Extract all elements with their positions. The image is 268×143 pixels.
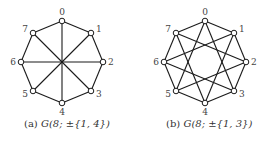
vertex-6 xyxy=(161,59,167,65)
graph-a-circulant-8-1-4: 01234567 xyxy=(10,7,113,117)
edge-4-5 xyxy=(33,91,62,103)
edge-0-1 xyxy=(62,21,91,33)
graph-b-circulant-8-1-3: 01234567 xyxy=(153,7,256,117)
vertex-label-1: 1 xyxy=(96,24,102,34)
vertex-label-2: 2 xyxy=(108,57,114,67)
vertex-1 xyxy=(231,30,237,36)
vertex-label-4: 4 xyxy=(59,107,65,117)
vertex-5 xyxy=(173,88,179,94)
edge-5-6 xyxy=(21,62,33,91)
caption-a-prefix: (a) xyxy=(24,118,38,129)
vertex-label-1: 1 xyxy=(239,24,245,34)
vertex-label-5: 5 xyxy=(22,89,28,99)
vertex-0 xyxy=(202,18,208,24)
vertex-2 xyxy=(100,59,106,65)
vertex-2 xyxy=(243,59,249,65)
vertex-4 xyxy=(59,100,65,106)
vertex-label-5: 5 xyxy=(165,89,171,99)
vertex-label-7: 7 xyxy=(22,24,28,34)
edge-0-7 xyxy=(33,21,62,33)
vertex-label-3: 3 xyxy=(96,89,102,99)
vertex-label-7: 7 xyxy=(165,24,171,34)
caption-b-math: G(8; ±{1, 3}) xyxy=(183,118,252,129)
vertex-label-6: 6 xyxy=(153,57,159,67)
vertex-label-0: 0 xyxy=(59,7,65,17)
edge-1-2 xyxy=(91,33,103,62)
vertex-5 xyxy=(30,88,36,94)
vertex-7 xyxy=(30,30,36,36)
edge-3-4 xyxy=(62,91,91,103)
vertex-label-0: 0 xyxy=(202,7,208,17)
caption-b: (b) G(8; ±{1, 3}) xyxy=(166,118,252,129)
caption-b-prefix: (b) xyxy=(166,118,180,129)
vertex-4 xyxy=(202,100,208,106)
vertex-1 xyxy=(88,30,94,36)
vertex-label-6: 6 xyxy=(10,57,16,67)
vertex-3 xyxy=(231,88,237,94)
vertex-6 xyxy=(18,59,24,65)
vertex-7 xyxy=(173,30,179,36)
caption-a-math: G(8; ±{1, 4}) xyxy=(41,118,110,129)
vertex-3 xyxy=(88,88,94,94)
vertex-0 xyxy=(59,18,65,24)
vertex-label-3: 3 xyxy=(239,89,245,99)
edge-2-3 xyxy=(91,62,103,91)
caption-a: (a) G(8; ±{1, 4}) xyxy=(24,118,110,129)
vertex-label-4: 4 xyxy=(202,107,208,117)
edge-6-7 xyxy=(21,33,33,62)
vertex-label-2: 2 xyxy=(251,57,257,67)
